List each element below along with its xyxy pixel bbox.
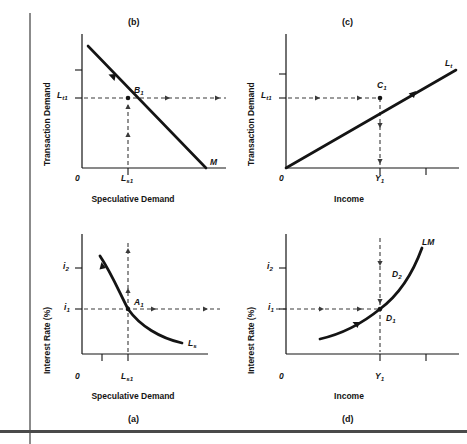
panel-a-plot <box>30 226 234 386</box>
panel-c-plot <box>234 28 467 194</box>
panel-c: (c) Transaction Demand Income 0 <box>234 14 467 214</box>
panel-d-curve-LM <box>320 248 422 339</box>
panel-c-caption: (c) <box>342 17 353 27</box>
panel-a-curve-label-ls: Ls <box>188 339 197 348</box>
panel-c-point-label-c1: C1 <box>377 81 387 90</box>
panel-d: Interest Rate (%) Income 0 (d) <box>234 226 467 431</box>
panel-b-ytick-label-lt1: Lt1 <box>57 91 68 100</box>
panel-d-ytick-label-i1: i1 <box>268 303 274 312</box>
panel-a-x-axis-title: Speculative Demand <box>58 391 208 401</box>
panel-d-ytick-label-i2: i2 <box>267 262 273 271</box>
panel-a-point-label-a1: A1 <box>134 298 144 307</box>
panel-b-xtick-label-ls1: Ls1 <box>121 174 133 183</box>
panel-d-point-label-d2: D2 <box>392 270 402 279</box>
panel-a-ytick-label-i2: i2 <box>63 262 69 271</box>
panel-d-xtick-label-y1: Y1 <box>375 372 384 381</box>
panel-d-caption: (d) <box>342 414 354 424</box>
panel-d-point-label-d1: D1 <box>386 314 396 323</box>
panel-c-ytick-label-lt1: Lt1 <box>261 91 272 100</box>
panel-b-x-axis-title: Speculative Demand <box>58 194 208 204</box>
panel-c-xtick-label-y1: Y1 <box>375 174 384 183</box>
panel-a: Interest Rate (%) Speculative Demand 0 (… <box>30 226 234 431</box>
panel-a-ytick-label-i1: i1 <box>64 303 70 312</box>
panel-c-x-axis-title: Income <box>309 194 389 204</box>
panel-a-xtick-label-ls1: Ls1 <box>121 372 133 381</box>
panel-b-point-label-b1: B1 <box>134 86 144 95</box>
panel-c-curve-Lt <box>286 70 456 168</box>
panel-b: (b) Transaction Demand Speculative Deman… <box>30 14 234 214</box>
panel-d-curve-label-lm: LM <box>422 238 434 247</box>
panel-a-caption: (a) <box>128 414 139 424</box>
panel-b-caption: (b) <box>128 17 140 27</box>
panel-b-curve-label-m: M <box>210 158 217 167</box>
panel-b-plot <box>30 28 234 194</box>
panel-d-x-axis-title: Income <box>309 391 389 401</box>
panel-b-curve-M <box>88 46 206 168</box>
panel-c-curve-label-lt: Lt <box>445 59 452 68</box>
